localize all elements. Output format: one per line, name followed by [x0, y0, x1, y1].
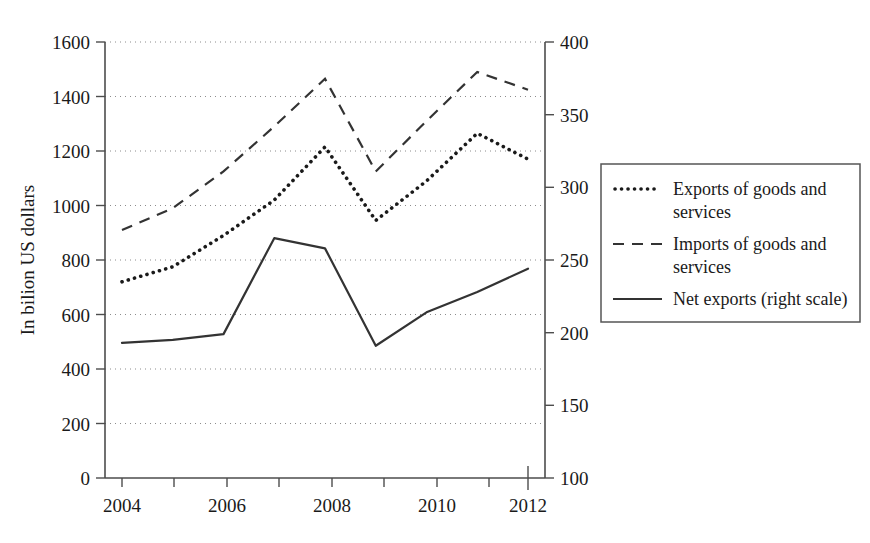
y-axis-left: 1600 1400 1200 1000 800 600 400 200 0	[52, 32, 105, 489]
x-tick-label-2010: 2010	[418, 495, 456, 516]
legend-label-exports-line2: services	[673, 202, 731, 222]
y-tick-label-200: 200	[62, 414, 91, 435]
y-right-label-250: 250	[560, 250, 589, 271]
y-right-label-100: 100	[560, 468, 589, 489]
x-tick-label-2008: 2008	[313, 495, 351, 516]
series-line-net-exports	[122, 238, 528, 346]
y-tick-label-1000: 1000	[52, 196, 90, 217]
y-tick-label-0: 0	[81, 468, 91, 489]
y-tick-label-800: 800	[62, 250, 91, 271]
legend-label-imports-line2: services	[673, 257, 731, 277]
y-right-label-300: 300	[560, 177, 589, 198]
chart-legend: Exports of goods and services Imports of…	[601, 164, 860, 322]
y-tick-label-1600: 1600	[52, 32, 90, 53]
data-series-group	[122, 72, 528, 346]
x-axis: 2004 2006 2008 2010 2012	[103, 466, 547, 516]
y-right-label-350: 350	[560, 105, 589, 126]
y-tick-label-1200: 1200	[52, 141, 90, 162]
x-tick-label-2006: 2006	[208, 495, 246, 516]
y-right-label-400: 400	[560, 32, 589, 53]
gridlines	[105, 42, 545, 424]
legend-label-net-line1: Net exports (right scale)	[673, 289, 847, 310]
y-right-label-150: 150	[560, 395, 589, 416]
y-axis-right: 400 350 300 250 200 150 100	[545, 32, 589, 489]
y-tick-label-400: 400	[62, 359, 91, 380]
y-tick-label-1400: 1400	[52, 87, 90, 108]
line-chart-canvas: 1600 1400 1200 1000 800 600 400 200 0 In…	[0, 0, 870, 543]
y-axis-title: In bilion US dollars	[17, 185, 38, 335]
legend-label-imports-line1: Imports of goods and	[673, 234, 826, 254]
y-right-label-200: 200	[560, 323, 589, 344]
legend-label-exports-line1: Exports of goods and	[673, 179, 826, 199]
chart-figure: 1600 1400 1200 1000 800 600 400 200 0 In…	[0, 0, 870, 543]
x-tick-label-2004: 2004	[103, 495, 142, 516]
x-tick-label-2012: 2012	[509, 495, 547, 516]
y-tick-label-600: 600	[62, 305, 91, 326]
